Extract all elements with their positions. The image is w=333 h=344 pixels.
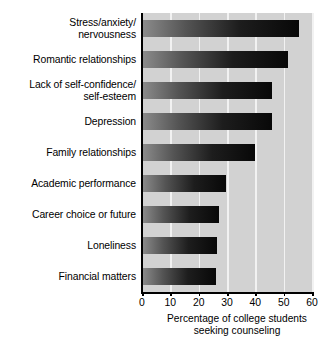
value-axis-title: Percentage of college students seeking c… bbox=[142, 313, 332, 337]
bar bbox=[142, 144, 255, 161]
category-label: Academic performance bbox=[0, 178, 136, 190]
tick-mark bbox=[255, 292, 257, 296]
bar bbox=[142, 175, 226, 192]
tick-mark bbox=[170, 292, 172, 296]
category-label: Depression bbox=[0, 116, 136, 128]
category-label: Romantic relationships bbox=[0, 54, 136, 66]
tick-label: 0 bbox=[127, 297, 157, 309]
bar bbox=[142, 268, 216, 285]
tick-label: 50 bbox=[269, 297, 299, 309]
tick-mark bbox=[284, 292, 286, 296]
tick-label: 20 bbox=[184, 297, 214, 309]
tick-label: 30 bbox=[212, 297, 242, 309]
category-label: Stress/anxiety/ nervousness bbox=[0, 17, 136, 40]
bar bbox=[142, 237, 217, 254]
gridline bbox=[312, 13, 314, 292]
tick-mark bbox=[227, 292, 229, 296]
category-label: Financial matters bbox=[0, 271, 136, 283]
value-axis-left-edge bbox=[141, 13, 143, 293]
bar bbox=[142, 113, 272, 130]
bar bbox=[142, 20, 299, 37]
category-axis-labels: Stress/anxiety/ nervousnessRomantic rela… bbox=[0, 13, 136, 292]
tick-mark bbox=[199, 292, 201, 296]
category-label: Career choice or future bbox=[0, 209, 136, 221]
category-label: Lack of self-confidence/ self-esteem bbox=[0, 79, 136, 102]
category-label: Loneliness bbox=[0, 240, 136, 252]
bar bbox=[142, 51, 288, 68]
tick-label: 60 bbox=[297, 297, 327, 309]
bar bbox=[142, 206, 219, 223]
tick-label: 10 bbox=[155, 297, 185, 309]
category-label: Family relationships bbox=[0, 147, 136, 159]
bar-chart: Stress/anxiety/ nervousnessRomantic rela… bbox=[0, 0, 333, 344]
bar bbox=[142, 82, 272, 99]
tick-mark bbox=[312, 292, 314, 296]
tick-mark bbox=[142, 292, 144, 296]
tick-label: 40 bbox=[240, 297, 270, 309]
plot-area bbox=[142, 13, 312, 292]
